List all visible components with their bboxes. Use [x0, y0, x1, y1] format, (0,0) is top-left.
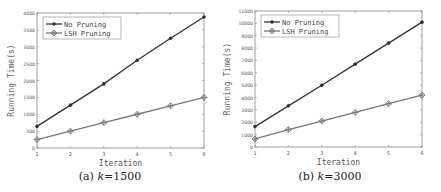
y-axis-label: Running Time(s) — [7, 44, 16, 116]
x-axis-label: Iteration — [317, 158, 361, 167]
data-point — [287, 104, 291, 108]
y-tick-label: 2500 — [23, 62, 35, 67]
legend: No PruningLSH Pruning — [261, 15, 339, 37]
x-tick-label: 3 — [102, 151, 105, 157]
line-chart-a: 05001000150020002500300035004000123456It… — [0, 0, 220, 170]
caption-label: (b) — [298, 170, 317, 183]
data-point — [102, 82, 106, 86]
legend-marker-dot — [270, 20, 274, 24]
data-point — [320, 83, 324, 87]
x-tick-label: 6 — [202, 151, 205, 157]
y-axis-label: Running Time(s) — [223, 43, 232, 115]
y-tick-label: 6000 — [241, 71, 253, 76]
caption-value: =1500 — [104, 170, 141, 183]
data-point — [387, 41, 391, 45]
x-tick-label: 5 — [169, 151, 172, 157]
x-tick-label: 3 — [320, 150, 323, 156]
y-tick-label: 9000 — [241, 34, 253, 39]
y-tick-label: 4000 — [241, 96, 253, 101]
legend-entry: No Pruning — [282, 19, 324, 27]
caption-b: (b) k=3000 — [220, 170, 440, 183]
data-point — [253, 125, 257, 129]
caption-value: =3000 — [324, 170, 361, 183]
y-tick-label: 2000 — [241, 120, 253, 125]
y-tick-label: 7000 — [241, 58, 253, 63]
caption-a: (a) k=1500 — [0, 170, 220, 183]
legend: No PruningLSH Pruning — [43, 17, 121, 39]
data-point — [135, 58, 139, 62]
y-tick-label: 3000 — [241, 108, 253, 113]
data-point — [169, 37, 173, 41]
line-chart-b: 0100020003000400050006000700080009000100… — [220, 0, 441, 170]
data-point — [202, 15, 206, 19]
x-tick-label: 4 — [354, 150, 357, 156]
x-tick-label: 2 — [287, 150, 290, 156]
data-point — [353, 62, 357, 66]
legend-entry: LSH Pruning — [64, 30, 110, 38]
y-tick-label: 2000 — [23, 79, 35, 84]
y-tick-label: 11000 — [238, 9, 253, 14]
x-tick-label: 1 — [253, 150, 256, 156]
chart-panel-b: 0100020003000400050006000700080009000100… — [220, 0, 440, 192]
y-tick-label: 3000 — [23, 45, 35, 50]
x-tick-label: 4 — [136, 151, 139, 157]
x-tick-label: 1 — [35, 151, 38, 157]
y-tick-label: 4000 — [23, 11, 35, 16]
legend-marker-dot — [52, 22, 56, 26]
y-tick-label: 1500 — [23, 95, 35, 100]
legend-entry: LSH Pruning — [282, 28, 328, 36]
y-tick-label: 5000 — [241, 83, 253, 88]
y-tick-label: 3500 — [23, 28, 35, 33]
y-tick-label: 1000 — [241, 133, 253, 138]
y-tick-label: 8000 — [241, 46, 253, 51]
data-point — [35, 125, 39, 129]
y-tick-label: 10000 — [238, 21, 253, 26]
data-point — [69, 103, 73, 107]
x-tick-label: 2 — [69, 151, 72, 157]
x-axis-label: Iteration — [99, 159, 143, 168]
data-point — [420, 20, 424, 24]
y-tick-label: 500 — [26, 129, 35, 134]
caption-label: (a) — [79, 170, 98, 183]
y-tick-label: 1000 — [23, 112, 35, 117]
legend-entry: No Pruning — [64, 21, 106, 29]
chart-panel-a: 05001000150020002500300035004000123456It… — [0, 0, 220, 192]
x-tick-label: 5 — [387, 150, 390, 156]
x-tick-label: 6 — [420, 150, 423, 156]
